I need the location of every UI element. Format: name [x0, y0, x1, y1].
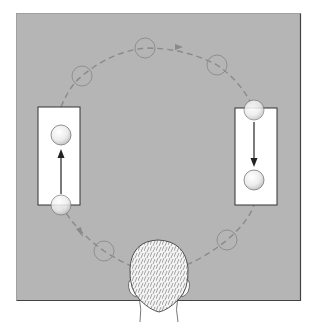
right-box: [235, 108, 277, 205]
right-top-ball: [244, 100, 264, 120]
observer-head: [128, 240, 189, 322]
observer-hair: [130, 240, 188, 312]
illustration: [0, 0, 316, 332]
left-bottom-ball: [51, 195, 71, 215]
left-box-ball: [51, 125, 71, 145]
right-box-ball: [244, 170, 264, 190]
